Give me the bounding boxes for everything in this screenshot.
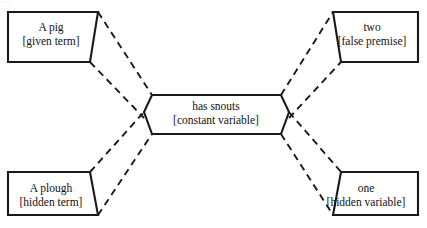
hidden-term-node-label: A plough [hidden term] — [10, 182, 92, 209]
given-term-line-2: [given term] — [10, 35, 92, 49]
diagram-canvas: '''' — [0, 0, 427, 228]
false-premise-line-2: [false premise] — [330, 35, 414, 49]
connector-center-to-bottom-right-rail-upper — [289, 112, 341, 172]
hidden-term-line-2: [hidden term] — [10, 196, 92, 210]
false-premise-node-label: two [false premise] — [330, 21, 414, 48]
connector-center-to-top-right-rail-upper — [281, 12, 333, 95]
hidden-variable-node-label: one [hidden variable] — [318, 182, 414, 209]
constant-variable-line-2: [constant variable] — [152, 114, 280, 128]
connector-bottom-left-to-center-rail-lower — [98, 134, 152, 215]
hidden-variable-line-2: [hidden variable] — [318, 196, 414, 210]
connector-top-left-to-center-rail-upper — [98, 12, 152, 95]
constant-variable-line-1: has snouts — [152, 100, 280, 114]
given-term-line-1: A pig — [10, 21, 92, 35]
false-premise-line-1: two — [330, 21, 414, 35]
hidden-term-line-1: A plough — [10, 182, 92, 196]
connector-bottom-left-to-center-rail-upper — [90, 112, 144, 172]
given-term-node-label: A pig [given term] — [10, 21, 92, 48]
hidden-variable-line-1: one — [318, 182, 414, 196]
connector-top-left-to-center-rail-lower — [90, 62, 144, 118]
constant-variable-node-label: has snouts [constant variable] — [152, 100, 280, 127]
